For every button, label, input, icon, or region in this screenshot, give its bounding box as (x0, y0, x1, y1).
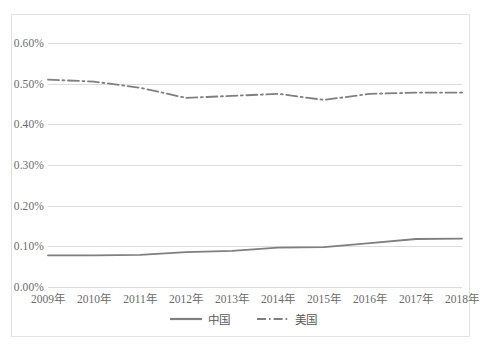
x-axis: 2009年2010年2011年2012年2013年2014年2015年2016年… (48, 290, 462, 308)
y-tick-label: 0.50% (14, 78, 44, 90)
y-tick-label: 0.60% (14, 37, 44, 49)
series-line-中国 (48, 239, 462, 256)
x-tick-label: 2011年 (123, 290, 157, 306)
legend-label-china: 中国 (208, 311, 230, 327)
y-tick-label: 0.30% (14, 159, 44, 171)
line-chart: 0.00%0.10%0.20%0.30%0.40%0.50%0.60% 2009… (0, 0, 485, 352)
y-axis: 0.00%0.10%0.20%0.30%0.40%0.50%0.60% (0, 43, 44, 287)
x-tick-label: 2012年 (169, 290, 203, 306)
series-line-美国 (48, 80, 462, 100)
x-tick-label: 2018年 (445, 290, 479, 306)
y-tick-label: 0.40% (14, 118, 44, 130)
gridline (48, 287, 462, 288)
plot-area (48, 43, 462, 287)
legend-item-usa: 美国 (256, 311, 317, 327)
x-tick-label: 2015年 (307, 290, 341, 306)
x-tick-label: 2009年 (31, 290, 65, 306)
series-layer (48, 43, 462, 287)
x-tick-label: 2017年 (399, 290, 433, 306)
x-tick-label: 2013年 (215, 290, 249, 306)
legend: 中国 美国 (0, 311, 485, 327)
x-tick-label: 2016年 (353, 290, 387, 306)
y-tick-label: 0.20% (14, 200, 44, 212)
y-tick-label: 0.10% (14, 240, 44, 252)
legend-label-usa: 美国 (295, 311, 317, 327)
legend-key-solid-icon (169, 314, 203, 324)
legend-item-china: 中国 (169, 311, 230, 327)
x-tick-label: 2014年 (261, 290, 295, 306)
legend-key-dashdot-icon (256, 314, 290, 324)
x-tick-label: 2010年 (77, 290, 111, 306)
